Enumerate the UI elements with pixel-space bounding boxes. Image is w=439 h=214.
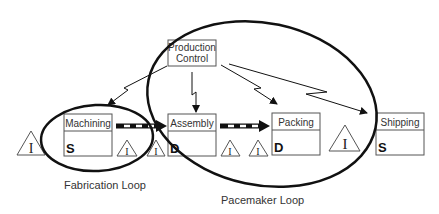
push-arrow-assembly-to-packing	[220, 120, 270, 132]
process-name: Assembly	[170, 118, 213, 129]
process-name: Packing	[278, 117, 314, 128]
process-shipping: Shipping S	[376, 113, 424, 155]
production-control-label-2: Control	[176, 53, 208, 64]
value-stream-diagram: Production Control Machining S Assembly …	[0, 0, 439, 214]
inventory-triangle-small-1: I	[117, 140, 137, 157]
info-arrow-to-machining	[108, 66, 167, 105]
process-name: Machining	[65, 118, 111, 129]
process-code: D	[274, 140, 283, 155]
process-name: Shipping	[381, 117, 420, 128]
inventory-letter: I	[228, 146, 231, 157]
pacemaker-loop-label: Pacemaker Loop	[221, 194, 304, 206]
inventory-triangle-small-3: I	[221, 140, 240, 157]
process-machining: Machining S	[64, 114, 112, 156]
fabrication-loop-label: Fabrication Loop	[64, 179, 146, 191]
info-arrow-to-packing	[221, 65, 277, 104]
production-control-label-1: Production	[168, 42, 216, 53]
process-code: S	[378, 140, 387, 155]
pacemaker-loop-ellipse	[132, 1, 393, 208]
info-arrow-to-assembly	[192, 72, 196, 112]
inventory-letter: I	[256, 146, 259, 157]
inventory-letter: I	[154, 146, 157, 157]
inventory-triangle-large-right: I	[329, 125, 360, 152]
inventory-letter: I	[343, 136, 348, 152]
process-code: S	[66, 141, 75, 156]
process-packing: Packing D	[272, 113, 320, 155]
production-control-box: Production Control	[168, 40, 216, 66]
inventory-letter: I	[125, 146, 128, 157]
inventory-letter: I	[29, 141, 34, 156]
inventory-triangle-small-4: I	[249, 140, 268, 157]
info-arrow-to-shipping	[229, 64, 367, 113]
